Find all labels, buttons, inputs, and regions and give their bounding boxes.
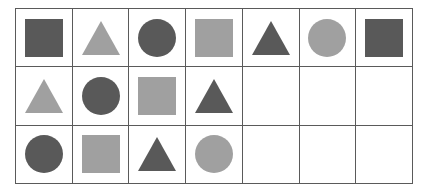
grid-cell[interactable] (16, 9, 73, 67)
grid-cell-content (186, 9, 242, 66)
circle-shape (195, 135, 233, 173)
grid-cell[interactable] (16, 67, 73, 125)
grid-cell-content (73, 9, 129, 66)
grid-cell[interactable] (186, 125, 243, 183)
grid-cell-content (73, 126, 129, 183)
grid-cell-content (300, 9, 356, 66)
grid-cell[interactable] (299, 67, 356, 125)
grid-cell[interactable] (356, 9, 413, 67)
grid-cell-content (129, 9, 185, 66)
circle-shape (82, 77, 120, 115)
grid-cell-content (16, 9, 72, 66)
square-shape (365, 19, 403, 57)
grid-cell[interactable] (129, 125, 186, 183)
grid-cell[interactable] (242, 125, 299, 183)
grid-cell[interactable] (186, 9, 243, 67)
shape-grid-table (15, 8, 413, 184)
grid-row (16, 67, 413, 125)
grid-cell[interactable] (299, 9, 356, 67)
square-shape (82, 135, 120, 173)
grid-cell-content (300, 126, 356, 183)
grid-cell[interactable] (242, 67, 299, 125)
circle-shape (25, 135, 63, 173)
grid-cell-content (243, 67, 299, 124)
grid-cell-content (243, 126, 299, 183)
circle-shape (138, 19, 176, 57)
grid-cell[interactable] (72, 125, 129, 183)
grid-cell-content (16, 67, 72, 124)
grid-cell-content (243, 9, 299, 66)
grid-cell[interactable] (186, 67, 243, 125)
grid-cell-content (356, 67, 412, 124)
grid-cell[interactable] (356, 67, 413, 125)
grid-cell[interactable] (72, 9, 129, 67)
triangle-shape (138, 137, 176, 171)
triangle-shape (252, 21, 290, 55)
shape-grid-container (15, 8, 405, 180)
grid-cell[interactable] (129, 67, 186, 125)
grid-cell-content (300, 67, 356, 124)
triangle-shape (82, 21, 120, 55)
grid-cell[interactable] (242, 9, 299, 67)
square-shape (138, 77, 176, 115)
grid-cell[interactable] (16, 125, 73, 183)
triangle-shape (25, 79, 63, 113)
grid-cell[interactable] (356, 125, 413, 183)
shape-grid-body (16, 9, 413, 184)
grid-cell-content (129, 67, 185, 124)
triangle-shape (195, 79, 233, 113)
grid-cell-content (356, 9, 412, 66)
circle-shape (308, 19, 346, 57)
grid-row (16, 9, 413, 67)
grid-cell[interactable] (129, 9, 186, 67)
grid-cell-content (186, 67, 242, 124)
grid-cell[interactable] (299, 125, 356, 183)
grid-cell-content (73, 67, 129, 124)
grid-row (16, 125, 413, 183)
grid-cell[interactable] (72, 67, 129, 125)
square-shape (195, 19, 233, 57)
grid-cell-content (129, 126, 185, 183)
square-shape (25, 19, 63, 57)
grid-cell-content (186, 126, 242, 183)
grid-cell-content (16, 126, 72, 183)
grid-cell-content (356, 126, 412, 183)
